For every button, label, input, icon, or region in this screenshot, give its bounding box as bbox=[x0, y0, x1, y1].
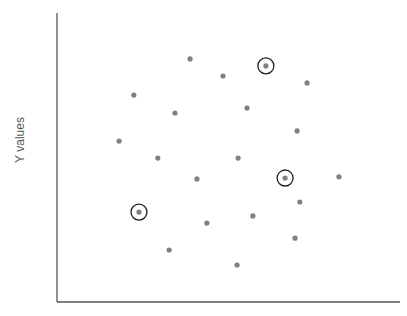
data-point bbox=[172, 110, 177, 115]
data-point bbox=[297, 199, 302, 204]
scatter-plot bbox=[0, 0, 407, 316]
data-point bbox=[220, 73, 225, 78]
data-point bbox=[194, 176, 199, 181]
data-point bbox=[236, 155, 241, 160]
data-point bbox=[155, 155, 160, 160]
data-point bbox=[136, 210, 141, 215]
data-point bbox=[234, 262, 239, 267]
data-point bbox=[187, 56, 192, 61]
data-point bbox=[336, 174, 341, 179]
data-point bbox=[244, 105, 249, 110]
data-point bbox=[263, 63, 268, 68]
data-point bbox=[204, 221, 209, 226]
data-point bbox=[292, 236, 297, 241]
data-point bbox=[304, 80, 309, 85]
data-point bbox=[116, 138, 121, 143]
data-point bbox=[250, 213, 255, 218]
data-point bbox=[295, 128, 300, 133]
data-point bbox=[167, 247, 172, 252]
data-points bbox=[116, 56, 341, 267]
data-point bbox=[131, 92, 136, 97]
data-point bbox=[282, 175, 287, 180]
